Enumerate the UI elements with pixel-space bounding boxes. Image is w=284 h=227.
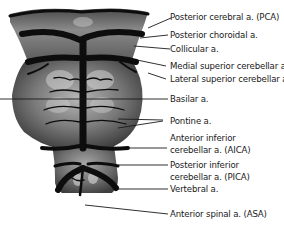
label-aica-line1: Anterior inferior xyxy=(170,133,236,144)
label-basilar-artery: Basilar a. xyxy=(170,94,208,105)
label-aica-line2: cerebellar a. (AICA) xyxy=(170,145,250,156)
brainstem-artery-diagram: Posterior cerebral a. (PCA) Posterior ch… xyxy=(0,0,284,227)
label-pica-line1: Posterior inferior xyxy=(170,160,239,171)
label-posterior-cerebral-artery: Posterior cerebral a. (PCA) xyxy=(170,12,279,23)
label-anterior-spinal-artery: Anterior spinal a. (ASA) xyxy=(170,209,267,220)
pons xyxy=(12,58,143,148)
label-pontine-artery: Pontine a. xyxy=(170,116,211,127)
label-posterior-choroidal-artery: Posterior choroidal a. xyxy=(170,30,258,41)
label-pica-line2: cerebellar a. (PICA) xyxy=(170,172,250,183)
label-vertebral-artery: Vertebral a. xyxy=(170,184,218,195)
label-collicular-artery: Collicular a. xyxy=(170,44,219,55)
label-lateral-superior-cerebellar-artery: Lateral superior cerebellar a. xyxy=(170,74,284,85)
label-medial-superior-cerebellar-artery: Medial superior cerebellar a. xyxy=(170,61,284,72)
